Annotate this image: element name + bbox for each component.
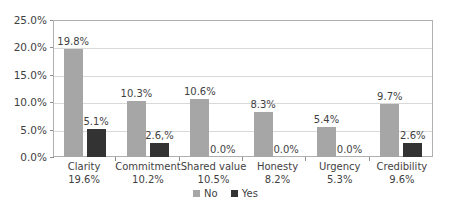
bar-value-label: 5.4% <box>314 115 339 125</box>
category-name: Honesty <box>246 161 308 174</box>
category-percentage: 10.2% <box>115 174 180 187</box>
chart-legend: NoYes <box>0 188 451 199</box>
bar-slot-no: 8.3% <box>254 20 273 157</box>
bar-value-label: 10.6% <box>184 87 216 97</box>
bar-value-label: 0.0% <box>337 145 362 155</box>
bar-slot-no: 9.7% <box>380 20 399 157</box>
y-axis-tick-label: 25.0% <box>14 14 47 26</box>
legend-swatch-icon <box>193 190 200 197</box>
category-percentage: 19.6% <box>53 174 115 187</box>
bar-no[interactable] <box>380 104 399 157</box>
bar-slot-no: 19.8% <box>64 20 83 157</box>
bar-slot-yes: 2.6,% <box>150 20 169 157</box>
x-axis-category-labels: Clarity19.6%Commitment10.2%Shared value1… <box>53 161 433 186</box>
bar-value-label: 9.7% <box>377 92 402 102</box>
x-axis-category: Commitment10.2% <box>115 161 180 186</box>
x-axis-category: Shared value10.5% <box>181 161 247 186</box>
bar-yes[interactable] <box>150 143 169 157</box>
bar-yes[interactable] <box>403 143 422 157</box>
bar-pair: 19.8%5.1% <box>53 20 116 157</box>
bar-pair: 9.7%2.6% <box>370 20 433 157</box>
bar-value-label: 5.1% <box>83 117 108 127</box>
y-axis-tick-label: 10.0% <box>14 96 47 108</box>
category-name: Credibility <box>371 161 433 174</box>
bar-group: 10.3%2.6,% <box>116 20 179 157</box>
category-percentage: 9.6% <box>371 174 433 187</box>
legend-label: Yes <box>242 188 258 199</box>
bar-chart: 25.0% 20.0% 15.0% 10.0% 5.0% 0.0% 19.8%5… <box>0 0 451 209</box>
bar-slot-yes: 0.0% <box>213 20 232 157</box>
bar-group: 19.8%5.1% <box>53 20 116 157</box>
legend-label: No <box>204 188 218 199</box>
bar-value-label: 0.0% <box>210 145 235 155</box>
bar-slot-no: 5.4% <box>317 20 336 157</box>
category-name: Shared value <box>181 161 247 174</box>
category-name: Commitment <box>115 161 180 174</box>
bar-value-label: 10.3% <box>121 89 153 99</box>
category-name: Urgency <box>309 161 371 174</box>
x-axis-category: Honesty8.2% <box>246 161 308 186</box>
x-axis-category: Credibility9.6% <box>371 161 433 186</box>
bar-value-label: 2.6% <box>400 131 425 141</box>
y-axis-tick-label: 0.0% <box>20 151 47 163</box>
y-axis-tick-mark <box>50 157 54 158</box>
legend-item-no[interactable]: No <box>193 188 218 199</box>
category-name: Clarity <box>53 161 115 174</box>
bar-group: 9.7%2.6% <box>370 20 433 157</box>
y-axis-tick-label: 20.0% <box>14 41 47 53</box>
legend-swatch-icon <box>231 190 238 197</box>
category-percentage: 5.3% <box>309 174 371 187</box>
bar-pair: 5.4%0.0% <box>306 20 369 157</box>
bar-no[interactable] <box>254 112 273 157</box>
bar-groups: 19.8%5.1%10.3%2.6,%10.6%0.0%8.3%0.0%5.4%… <box>53 20 433 157</box>
bar-group: 10.6%0.0% <box>180 20 243 157</box>
bar-value-label: 8.3% <box>250 100 275 110</box>
bar-no[interactable] <box>127 101 146 157</box>
bar-group: 8.3%0.0% <box>243 20 306 157</box>
bar-group: 5.4%0.0% <box>306 20 369 157</box>
bar-yes[interactable] <box>87 129 106 157</box>
bar-value-label: 0.0% <box>273 145 298 155</box>
x-axis-category: Clarity19.6% <box>53 161 115 186</box>
legend-item-yes[interactable]: Yes <box>231 188 258 199</box>
bar-value-label: 19.8% <box>57 37 89 47</box>
bar-slot-yes: 0.0% <box>340 20 359 157</box>
category-percentage: 8.2% <box>246 174 308 187</box>
bar-no[interactable] <box>317 127 336 157</box>
bar-pair: 10.3%2.6,% <box>116 20 179 157</box>
y-axis-tick-label: 5.0% <box>20 124 47 136</box>
bar-slot-yes: 5.1% <box>87 20 106 157</box>
bar-slot-no: 10.3% <box>127 20 146 157</box>
x-axis-category: Urgency5.3% <box>309 161 371 186</box>
bar-pair: 8.3%0.0% <box>243 20 306 157</box>
bar-slot-yes: 2.6% <box>403 20 422 157</box>
bar-no[interactable] <box>64 49 83 158</box>
bar-value-label: 2.6,% <box>145 131 174 141</box>
category-percentage: 10.5% <box>181 174 247 187</box>
bar-slot-no: 10.6% <box>190 20 209 157</box>
y-axis-tick-label: 15.0% <box>14 69 47 81</box>
bar-slot-yes: 0.0% <box>277 20 296 157</box>
bar-pair: 10.6%0.0% <box>180 20 243 157</box>
y-axis: 25.0% 20.0% 15.0% 10.0% 5.0% 0.0% <box>0 0 47 209</box>
bar-no[interactable] <box>190 99 209 157</box>
